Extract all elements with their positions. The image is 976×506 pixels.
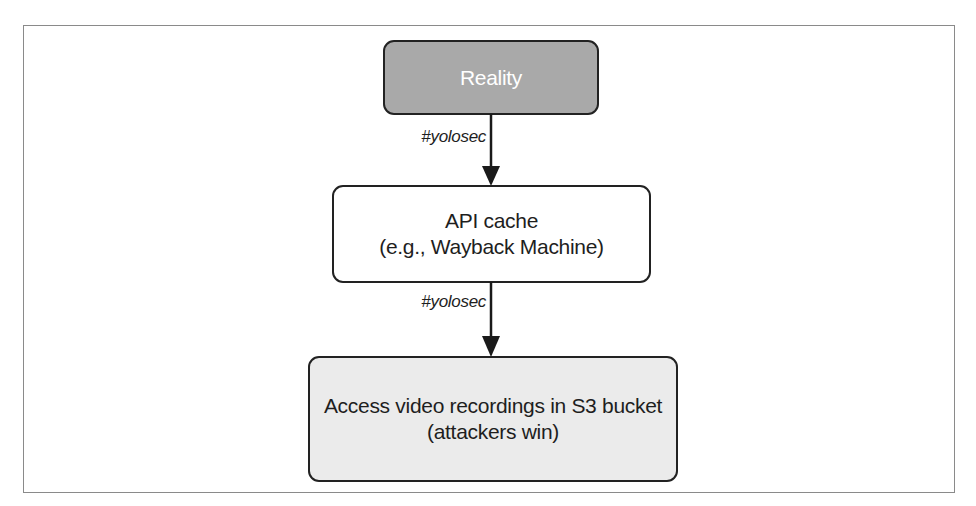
node-api-cache-title: API cache	[445, 208, 538, 234]
node-access-recordings: Access video recordings in S3 bucket (at…	[308, 356, 678, 482]
node-access-recordings-subtitle: (attackers win)	[427, 419, 559, 445]
node-access-recordings-title: Access video recordings in S3 bucket	[324, 393, 662, 419]
node-api-cache: API cache (e.g., Wayback Machine)	[332, 185, 651, 283]
arrow-reality-to-cache	[480, 114, 502, 187]
node-reality-label: Reality	[460, 65, 522, 91]
node-reality: Reality	[383, 40, 599, 115]
arrowhead-down-icon	[482, 166, 500, 186]
edge-label-cache-to-access: #yolosec	[421, 292, 486, 312]
node-api-cache-subtitle: (e.g., Wayback Machine)	[379, 234, 604, 260]
arrowhead-down-icon	[482, 336, 500, 357]
edge-label-reality-to-cache: #yolosec	[421, 127, 486, 147]
